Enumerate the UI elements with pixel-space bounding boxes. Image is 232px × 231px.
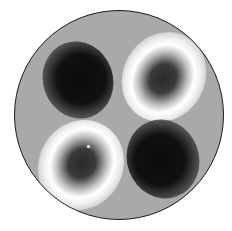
circular-pattern-disc <box>14 10 224 220</box>
bright-lobe-bottom-left <box>22 104 141 220</box>
dark-lobe-top-left <box>32 31 124 128</box>
dark-lobe-bottom-right <box>115 109 210 209</box>
bright-spot <box>87 145 90 148</box>
